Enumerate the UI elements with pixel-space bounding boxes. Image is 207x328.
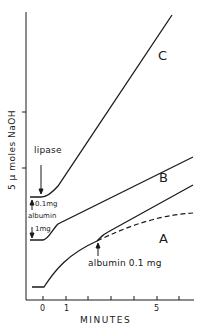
y-axis-label: 5 µ moles NaOH (8, 110, 17, 190)
lipase-annotation: lipase (34, 146, 62, 155)
albumin-a-annotation: albumin 0.1 mg (88, 259, 162, 268)
curve-a-dashed (97, 213, 193, 241)
curve-label-b: B (159, 171, 168, 184)
x-tick-label-0: 0 (40, 305, 45, 313)
curve-label-c: C (158, 49, 167, 62)
x-ticks (43, 296, 179, 300)
lipase-arrow (39, 165, 43, 194)
albumin-annotation: albumin (28, 213, 56, 220)
albumin-01mg-annotation: 0.1mg (35, 201, 57, 208)
x-tick-label-5: 5 (154, 305, 159, 313)
albumin-a-arrow (96, 243, 100, 256)
x-tick-label-1: 1 (64, 305, 69, 313)
curve-label-a: A (159, 232, 168, 245)
albumin-1mg-annotation: 1mg (35, 226, 51, 233)
chart-plot (0, 0, 207, 328)
albumin-down-arrow (30, 227, 34, 238)
albumin-up-arrow (30, 200, 34, 210)
x-axis-label: MINUTES (80, 316, 131, 325)
curve-c (30, 15, 172, 197)
